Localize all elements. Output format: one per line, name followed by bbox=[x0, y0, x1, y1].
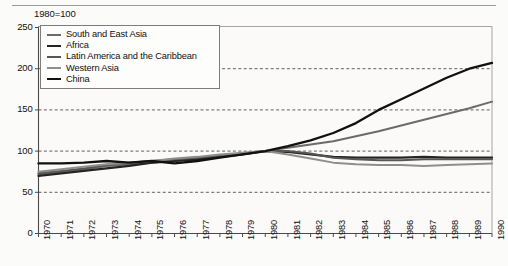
y-tick-label-200: 200 bbox=[7, 62, 33, 73]
x-tick-label-1989: 1989 bbox=[473, 220, 483, 240]
legend-swatch-icon-0 bbox=[47, 34, 61, 36]
x-tick-label-1971: 1971 bbox=[65, 220, 75, 240]
x-tick-label-1978: 1978 bbox=[224, 220, 234, 240]
x-tick-label-1970: 1970 bbox=[42, 220, 52, 240]
y-tick-label-150: 150 bbox=[7, 103, 33, 114]
chart-legend: South and East AsiaAfricaLatin America a… bbox=[40, 25, 220, 89]
legend-item-3[interactable]: Western Asia bbox=[44, 63, 215, 74]
legend-label-0: South and East Asia bbox=[66, 29, 147, 40]
x-tick-label-1990: 1990 bbox=[496, 220, 506, 240]
legend-label-1: Africa bbox=[66, 40, 89, 51]
x-tick-label-1977: 1977 bbox=[201, 220, 211, 240]
x-tick-label-1986: 1986 bbox=[405, 220, 415, 240]
chart-figure: 1980=100 South and East AsiaAfricaLatin … bbox=[0, 0, 508, 266]
legend-item-2[interactable]: Latin America and the Caribbean bbox=[44, 51, 215, 62]
x-tick-label-1973: 1973 bbox=[110, 220, 120, 240]
y-tick-label-250: 250 bbox=[7, 21, 33, 32]
legend-item-4[interactable]: China bbox=[44, 74, 215, 85]
legend-item-0[interactable]: South and East Asia bbox=[44, 29, 215, 40]
legend-label-4: China bbox=[66, 74, 90, 85]
x-tick-label-1981: 1981 bbox=[292, 220, 302, 240]
y-tick-label-100: 100 bbox=[7, 145, 33, 156]
x-tick-label-1983: 1983 bbox=[337, 220, 347, 240]
x-tick-label-1980: 1980 bbox=[269, 220, 279, 240]
x-tick-label-1984: 1984 bbox=[360, 220, 370, 240]
x-tick-label-1974: 1974 bbox=[133, 220, 143, 240]
x-tick-label-1975: 1975 bbox=[155, 220, 165, 240]
x-tick-label-1987: 1987 bbox=[428, 220, 438, 240]
legend-swatch-icon-3 bbox=[47, 67, 61, 69]
legend-swatch-icon-1 bbox=[47, 45, 61, 47]
x-tick-label-1982: 1982 bbox=[314, 220, 324, 240]
legend-label-3: Western Asia bbox=[66, 63, 119, 74]
legend-label-2: Latin America and the Caribbean bbox=[66, 51, 197, 62]
legend-item-1[interactable]: Africa bbox=[44, 40, 215, 51]
y-tick-label-0: 0 bbox=[7, 227, 33, 238]
legend-swatch-icon-2 bbox=[47, 56, 61, 58]
legend-swatch-icon-4 bbox=[47, 78, 61, 80]
x-tick-label-1972: 1972 bbox=[87, 220, 97, 240]
x-tick-label-1988: 1988 bbox=[450, 220, 460, 240]
x-tick-label-1985: 1985 bbox=[382, 220, 392, 240]
x-tick-label-1979: 1979 bbox=[246, 220, 256, 240]
y-tick-label-50: 50 bbox=[7, 186, 33, 197]
x-tick-label-1976: 1976 bbox=[178, 220, 188, 240]
